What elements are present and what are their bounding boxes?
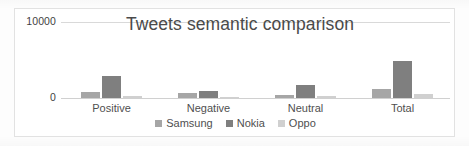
bar-groups	[63, 9, 451, 98]
chart-legend: SamsungNokiaOppo	[15, 117, 456, 130]
legend-swatch-nokia-icon	[226, 120, 233, 127]
x-axis-label-neutral: Neutral	[257, 101, 354, 115]
bar-oppo-neutral[interactable]	[317, 96, 336, 98]
bar-samsung-positive[interactable]	[81, 92, 100, 98]
x-axis-label-positive: Positive	[63, 101, 160, 115]
legend-label-samsung: Samsung	[166, 117, 212, 130]
legend-label-oppo: Oppo	[289, 117, 316, 130]
scanned-page: 10000 0 Tweets semantic comparison Posit…	[0, 0, 469, 146]
legend-item-samsung[interactable]: Samsung	[155, 117, 212, 130]
legend-label-nokia: Nokia	[237, 117, 265, 130]
x-axis-labels: PositiveNegativeNeutralTotal	[63, 101, 451, 117]
bar-nokia-total[interactable]	[393, 61, 412, 98]
y-axis-tick-label-zero: 0	[0, 92, 56, 103]
legend-swatch-oppo-icon	[278, 120, 285, 127]
bar-oppo-positive[interactable]	[123, 96, 142, 98]
bar-oppo-negative[interactable]	[220, 97, 239, 98]
chart-frame: 10000 0 Tweets semantic comparison Posit…	[14, 8, 455, 137]
bar-samsung-total[interactable]	[372, 89, 391, 98]
bar-group	[63, 9, 160, 98]
bar-oppo-total[interactable]	[414, 94, 433, 98]
axis-baseline-0	[61, 98, 450, 99]
legend-item-oppo[interactable]: Oppo	[278, 117, 316, 130]
bar-nokia-neutral[interactable]	[296, 85, 315, 98]
bar-group	[257, 9, 354, 98]
bar-nokia-positive[interactable]	[102, 76, 121, 98]
bar-samsung-neutral[interactable]	[275, 95, 294, 98]
bar-nokia-negative[interactable]	[199, 91, 218, 98]
legend-item-nokia[interactable]: Nokia	[226, 117, 265, 130]
bar-group	[354, 9, 451, 98]
x-axis-label-total: Total	[354, 101, 451, 115]
legend-swatch-samsung-icon	[155, 120, 162, 127]
x-axis-label-negative: Negative	[160, 101, 257, 115]
y-axis-tick-label-top: 10000	[0, 16, 56, 27]
bar-samsung-negative[interactable]	[178, 93, 197, 98]
plot-area: 10000 0 Tweets semantic comparison Posit…	[15, 9, 456, 138]
bar-group	[160, 9, 257, 98]
